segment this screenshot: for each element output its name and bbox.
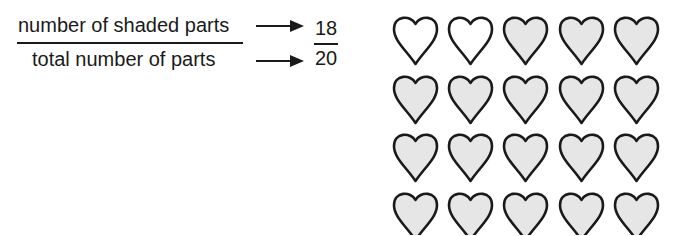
shaded-heart-icon — [391, 73, 440, 125]
numerator-value: 18 — [315, 17, 337, 39]
shaded-heart-icon — [446, 131, 495, 183]
number-fraction-bar — [314, 43, 338, 45]
shaded-heart-icon — [612, 14, 661, 66]
shaded-heart-icon — [446, 73, 495, 125]
shaded-heart-icon — [501, 14, 550, 66]
denominator-label: total number of parts — [32, 48, 215, 70]
denominator-value: 20 — [315, 47, 337, 69]
arrow-right-icon — [256, 54, 304, 68]
shaded-heart-icon — [446, 190, 495, 236]
arrow-right-icon — [256, 19, 304, 33]
shaded-heart-icon — [501, 131, 550, 183]
shaded-heart-icon — [557, 14, 606, 66]
label-fraction-bar — [17, 42, 243, 44]
shaded-heart-icon — [612, 190, 661, 236]
shaded-heart-icon — [557, 131, 606, 183]
shaded-heart-icon — [612, 73, 661, 125]
shaded-heart-icon — [557, 190, 606, 236]
shaded-heart-icon — [391, 190, 440, 236]
shaded-heart-icon — [391, 131, 440, 183]
unshaded-heart-icon — [391, 14, 440, 66]
shaded-heart-icon — [501, 73, 550, 125]
shaded-heart-icon — [612, 131, 661, 183]
shaded-heart-icon — [557, 73, 606, 125]
unshaded-heart-icon — [446, 14, 495, 66]
shaded-heart-icon — [501, 190, 550, 236]
numerator-label: number of shaded parts — [18, 14, 229, 36]
